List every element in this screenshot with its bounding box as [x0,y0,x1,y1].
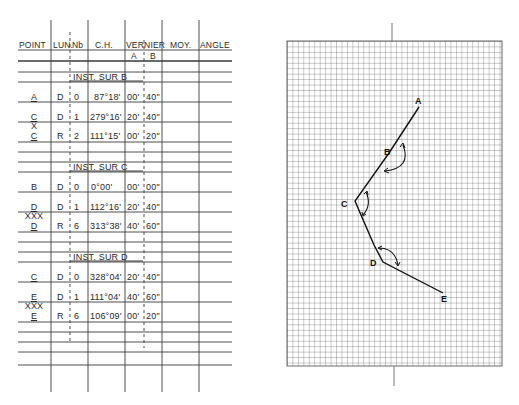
row-vernier-b: 40" [146,112,160,122]
row-ch: 279°16' [90,112,122,122]
row-vernier-a: 40' [127,221,139,231]
traverse-diagram: A B C D E [280,0,519,405]
row-vernier-a: 20' [127,202,139,212]
row-point: E [31,311,37,321]
point-label-b: B [384,147,391,157]
row-vernier-a: 00' [127,182,139,192]
row-vernier-a: 20' [127,112,139,122]
header-moy: MOY. [170,40,191,50]
row-ch: 328°04' [90,272,122,282]
row-ch: 0°00' [91,182,112,192]
header-nb: Nb [72,40,83,50]
header-ch: C.H. [95,40,113,50]
point-label-a: A [415,96,422,106]
row-point: A [31,92,37,102]
point-label-e: E [441,294,447,304]
row-lun: R [57,131,64,141]
row-ch: 87°18' [94,92,121,102]
row-nb: 1 [74,202,79,212]
row-ch: 111°04' [90,292,120,302]
row-vernier-b: 60" [146,292,160,302]
row-ch: 112°16' [90,202,121,212]
point-label-c: C [341,199,348,209]
graph-paper: A B C D E [280,0,519,405]
row-nb: 0 [74,182,79,192]
row-vernier-b: 20" [146,131,160,141]
row-lun: D [57,92,64,102]
row-nb: 0 [74,92,79,102]
row-point: D [31,221,38,231]
row-vernier-b: 20" [146,311,160,321]
row-point: B [31,182,37,192]
header-vernier-a: A [131,51,137,61]
row-vernier-b: 40" [146,92,160,102]
header-angle: ANGLE [200,40,230,50]
row-vernier-b: 60" [146,221,160,231]
row-mark: X [31,121,37,131]
row-nb: 6 [74,221,79,231]
point-label-d: D [370,258,377,268]
row-ch: 111°15' [90,131,120,141]
row-lun: D [57,272,64,282]
row-vernier-b: 40" [146,202,160,212]
row-lun: D [57,112,64,122]
row-vernier-a: 00' [127,311,139,321]
row-ch: 313°38' [90,221,122,231]
row-vernier-a: 20' [127,272,139,282]
row-nb: 6 [74,311,79,321]
row-vernier-a: 40' [127,292,139,302]
row-nb: 1 [74,112,79,122]
row-vernier-a: 00' [127,131,139,141]
section-title: INST. SUR B [73,72,127,82]
row-ch: 106°09' [90,311,122,321]
header-vernier-b: B [150,51,156,61]
row-lun: R [57,221,64,231]
row-vernier-b: 00" [146,182,160,192]
row-lun: D [57,182,64,192]
header-lun: LUN. [53,40,73,50]
row-point: C [31,272,38,282]
field-book-table: POINT LUN. Nb C.H. VERNIER MOY. ANGLE A … [0,0,250,405]
row-lun: R [57,311,64,321]
section-title: INST. SUR C [73,162,128,172]
row-vernier-b: 40" [146,272,160,282]
row-nb: 1 [74,292,79,302]
header-point: POINT [19,40,46,50]
row-lun: D [57,202,64,212]
row-vernier-a: 00' [127,92,139,102]
row-lun: D [57,292,64,302]
row-mark: XXX [25,301,44,311]
row-nb: 2 [74,131,79,141]
row-mark: XXX [25,211,44,221]
row-point: C [31,131,38,141]
row-nb: 0 [74,272,79,282]
header-vernier: VERNIER [126,40,165,50]
section-title: INST. SUR D [73,252,128,262]
